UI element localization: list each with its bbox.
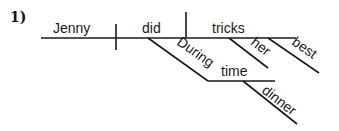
dinner-word: dinner — [259, 82, 300, 119]
object-word: tricks — [212, 20, 245, 36]
subject-word: Jenny — [53, 20, 90, 36]
preposition-word: During — [174, 33, 217, 70]
verb-word: did — [142, 20, 161, 36]
sentence-diagram: 1) Jenny did tricks During time dinner h… — [0, 0, 339, 131]
problem-number: 1) — [10, 9, 26, 25]
prep-object-word: time — [221, 63, 248, 79]
